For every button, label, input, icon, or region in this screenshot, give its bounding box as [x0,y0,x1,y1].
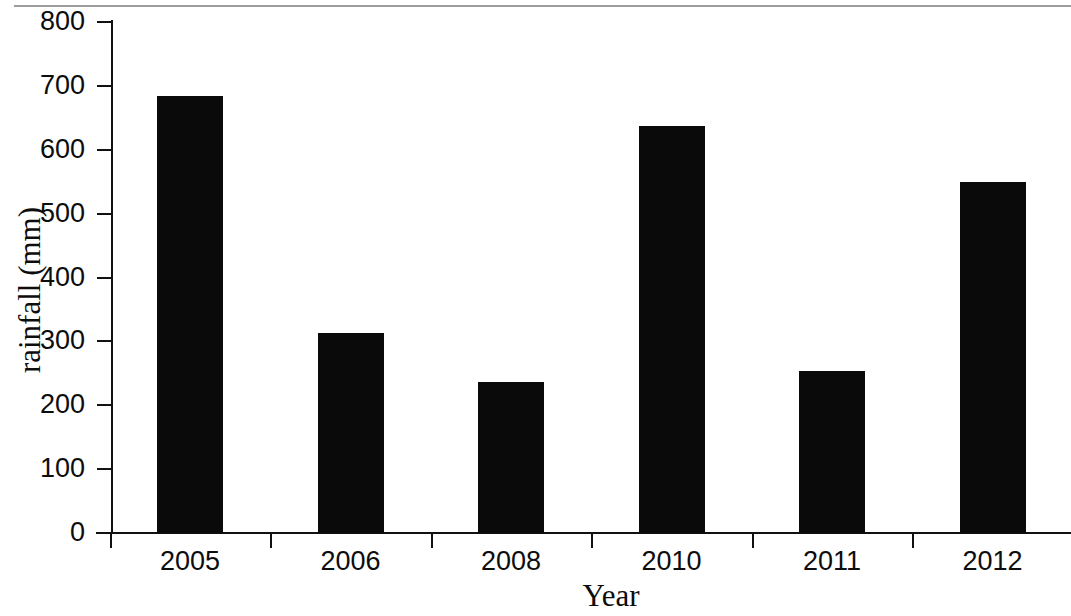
x-tick-mark [270,534,272,548]
x-tick-label: 2012 [923,548,1063,575]
y-tick-mark [97,468,111,470]
y-tick-label: 0 [12,519,85,546]
scan-edge-artifact [14,5,1071,7]
x-tick-mark [591,534,593,548]
x-tick-label: 2006 [281,548,421,575]
x-tick-label: 2008 [441,548,581,575]
bar [478,382,544,533]
y-tick-mark [97,85,111,87]
x-axis-title: Year [541,578,681,614]
y-tick-label: 100 [12,455,85,482]
y-tick-mark [97,21,111,23]
bar [960,182,1026,533]
x-tick-mark [912,534,914,548]
x-tick-mark [110,534,112,548]
y-tick-mark [97,277,111,279]
x-tick-mark [431,534,433,548]
y-tick-label: 600 [12,136,85,163]
y-axis-title: rainfall (mm) [12,170,48,410]
bar [318,333,384,533]
y-axis-line [111,20,113,534]
bar [799,371,865,533]
y-tick-mark [97,404,111,406]
y-tick-mark [97,149,111,151]
y-tick-label: 800 [12,8,85,35]
chart-figure: 8007006005004003002001000 20052006200820… [0,0,1071,616]
x-tick-mark [752,534,754,548]
y-tick-label: 700 [12,72,85,99]
x-tick-label: 2005 [120,548,260,575]
y-tick-mark [97,340,111,342]
x-tick-label: 2011 [762,548,902,575]
bar [639,126,705,533]
y-tick-mark [97,213,111,215]
x-axis-line [96,532,1071,534]
bar [157,96,223,533]
x-tick-label: 2010 [602,548,742,575]
